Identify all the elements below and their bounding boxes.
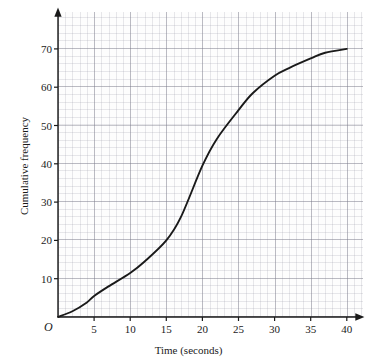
x-axis-title: Time (seconds) — [0, 344, 377, 356]
cumulative-frequency-chart: 510152025303540 10203040506070 O Time (s… — [0, 0, 377, 363]
origin-label: O — [44, 320, 53, 335]
chart-canvas — [0, 0, 377, 363]
x-tick-label-5: 5 — [91, 323, 97, 335]
x-tick-label-15: 15 — [161, 323, 172, 335]
x-tick-label-10: 10 — [125, 323, 136, 335]
y-tick-label-70: 70 — [26, 43, 52, 55]
x-tick-label-20: 20 — [197, 323, 208, 335]
x-tick-label-40: 40 — [341, 323, 352, 335]
x-tick-label-25: 25 — [233, 323, 244, 335]
x-tick-label-30: 30 — [269, 323, 280, 335]
cumulative-frequency-curve — [58, 49, 347, 317]
y-axis-title: Cumulative frequency — [18, 66, 30, 266]
x-tick-label-35: 35 — [305, 323, 316, 335]
y-tick-label-10: 10 — [26, 273, 52, 285]
